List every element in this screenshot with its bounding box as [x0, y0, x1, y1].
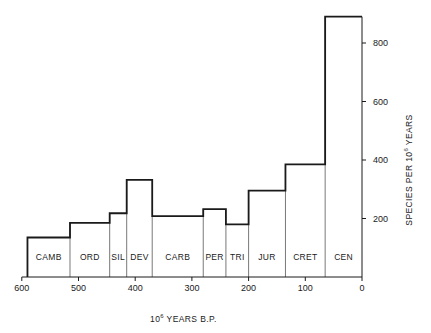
- period-label: CEN: [334, 252, 353, 262]
- bar-sil: SIL: [110, 213, 125, 277]
- y-axis: 200400600800: [362, 17, 388, 277]
- y-tick-label: 600: [373, 97, 388, 107]
- bar-dev: DEV: [127, 180, 149, 277]
- bar-ord: ORD: [70, 223, 100, 277]
- x-tick-label: 100: [298, 283, 313, 293]
- bar-per: PER: [203, 209, 224, 277]
- x-tick-label: 0: [359, 283, 364, 293]
- species-diversity-chart: CAMBORDSILDEVCARBPERTRIJURCRETCEN 600500…: [0, 0, 431, 333]
- x-tick-label: 600: [14, 283, 29, 293]
- period-label: ORD: [80, 252, 100, 262]
- x-tick-label: 400: [128, 283, 143, 293]
- period-label: DEV: [130, 252, 148, 262]
- step-outline: [27, 17, 362, 277]
- y-axis-title: SPECIES PER 106 YEARS: [403, 114, 414, 225]
- period-label: TRI: [230, 252, 245, 262]
- bar-cret: CRET: [285, 164, 317, 277]
- x-tick-label: 300: [184, 283, 199, 293]
- x-axis-title: 106 YEARS B.P.: [150, 313, 217, 324]
- period-label: JUR: [258, 252, 275, 262]
- bar-carb: CARB: [152, 216, 190, 277]
- bar-camb: CAMB: [27, 238, 61, 277]
- period-label: CARB: [165, 252, 190, 262]
- period-label: SIL: [111, 252, 125, 262]
- bar-cen: CEN: [325, 17, 353, 277]
- period-label: PER: [205, 252, 223, 262]
- y-tick-label: 800: [373, 38, 388, 48]
- y-tick-label: 200: [373, 214, 388, 224]
- x-axis: 6005004003002001000: [14, 277, 364, 293]
- y-tick-label: 400: [373, 155, 388, 165]
- bars-group: CAMBORDSILDEVCARBPERTRIJURCRETCEN: [27, 17, 362, 277]
- x-tick-label: 500: [71, 283, 86, 293]
- bar-tri: TRI: [226, 224, 245, 277]
- x-tick-label: 200: [241, 283, 256, 293]
- period-label: CRET: [293, 252, 317, 262]
- period-label: CAMB: [36, 252, 62, 262]
- bar-jur: JUR: [249, 191, 276, 277]
